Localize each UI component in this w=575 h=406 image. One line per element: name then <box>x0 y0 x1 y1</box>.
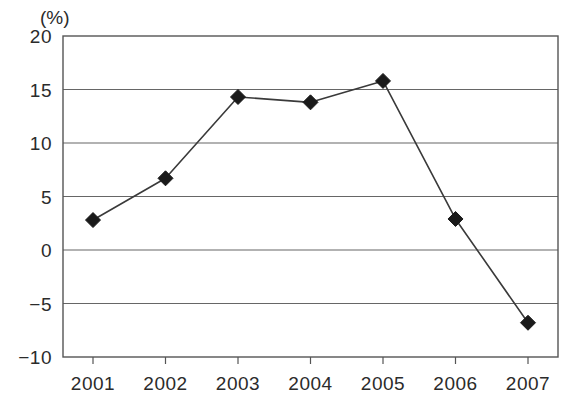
y-axis-unit-label: (%) <box>40 7 70 28</box>
x-axis-tick-label: 2006 <box>433 373 477 394</box>
y-axis-tick-label: 20 <box>30 26 52 47</box>
y-axis-tick-label: 0 <box>41 240 52 261</box>
line-chart: 20151050−5−10 20012002200320042005200620… <box>0 0 575 406</box>
y-axis-tick-label: 5 <box>41 187 52 208</box>
chart-background <box>0 0 575 406</box>
y-axis-tick-label: −10 <box>18 347 52 368</box>
x-axis-tick-label: 2002 <box>143 373 187 394</box>
x-axis-tick-label: 2004 <box>288 373 332 394</box>
x-axis-tick-label: 2005 <box>361 373 405 394</box>
y-axis-tick-label: 15 <box>30 80 52 101</box>
y-axis-tick-label: 10 <box>30 133 52 154</box>
chart-container: 20151050−5−10 20012002200320042005200620… <box>0 0 575 406</box>
y-axis-tick-label: −5 <box>29 294 52 315</box>
x-axis-tick-label: 2001 <box>71 373 115 394</box>
x-axis-tick-label: 2007 <box>506 373 550 394</box>
x-axis-tick-label: 2003 <box>216 373 260 394</box>
